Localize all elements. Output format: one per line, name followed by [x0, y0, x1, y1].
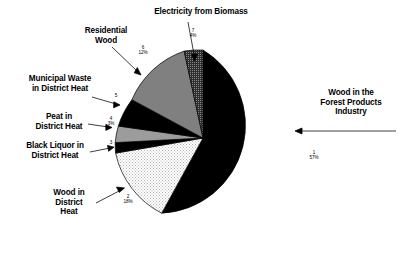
callout-electricity-from-biomass: Electricity from Biomass: [128, 7, 274, 17]
slice-marker-4: 4 3%: [103, 116, 119, 126]
slice-marker-7: 7 4%: [185, 28, 201, 38]
callout-municipal-waste: Municipal Waste in District Heat: [14, 74, 106, 93]
callout-residential-wood: Residential Wood: [58, 26, 154, 45]
callout-peat-district-heat: Peat in District Heat: [16, 112, 102, 131]
callout-forest-products: Wood in the Forest Products Industry: [306, 88, 396, 117]
slice-marker-3: 3: [105, 140, 117, 145]
slice-marker-2: 2 18%: [117, 194, 139, 204]
pie-slices: [115, 50, 245, 213]
arrowhead-forest: [295, 128, 302, 134]
slice-marker-6: 6 12%: [134, 45, 152, 55]
leader-line-municipal: [92, 97, 116, 104]
arrowhead-municipal: [114, 102, 120, 108]
slice-marker-1: 1 57%: [303, 150, 325, 160]
slice-marker-5: 5: [110, 93, 122, 98]
callout-wood-district-heat: Wood in District Heat: [32, 188, 106, 217]
callout-black-liquor: Black Liquor in District Heat: [8, 141, 102, 160]
arrowhead-residential: [134, 68, 141, 75]
arrowhead-blackliquor: [108, 145, 115, 151]
chart-canvas: Electricity from Biomass Residential Woo…: [0, 0, 401, 254]
